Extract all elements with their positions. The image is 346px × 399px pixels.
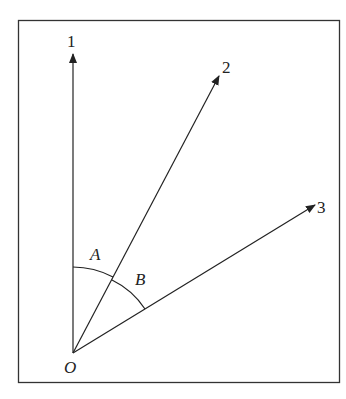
ray-3-label: 3 bbox=[317, 198, 326, 217]
ray-2-label: 2 bbox=[222, 58, 231, 77]
ray-2 bbox=[73, 76, 219, 353]
ray-3 bbox=[73, 205, 315, 353]
angle-a-label: A bbox=[89, 245, 101, 264]
origin-label: O bbox=[64, 358, 76, 377]
angle-b-label: B bbox=[135, 270, 146, 289]
frame-border bbox=[19, 21, 340, 383]
ray-1-label: 1 bbox=[67, 32, 76, 51]
angle-diagram: 1 2 3 A B O bbox=[0, 0, 346, 399]
angle-a-arc bbox=[73, 267, 113, 277]
